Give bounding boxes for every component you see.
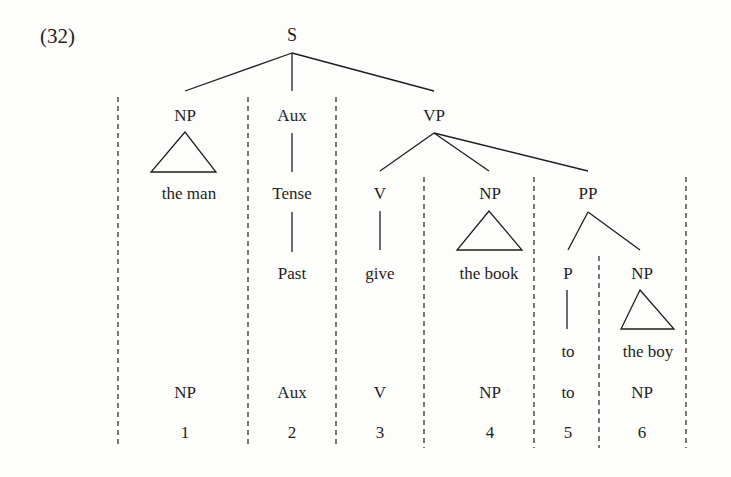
branch-vp-v [380,133,434,171]
node-np-subject: NP [174,107,196,124]
branch-pp-np [588,212,640,250]
branch-vp-pp [434,133,588,171]
analysis-category-1: NP [174,384,196,401]
node-aux: Aux [277,107,306,124]
node-p: P [563,265,572,282]
branch-s-vp [292,53,434,91]
node-v: V [374,185,386,202]
analysis-category-4: NP [479,384,501,401]
analysis-index-4: 4 [486,424,495,441]
node-vp: VP [423,107,445,124]
analysis-index-2: 2 [288,424,297,441]
branch-s-np [185,53,292,91]
node-to: to [561,343,574,360]
node-give: give [365,265,394,282]
node-s: S [287,26,297,44]
analysis-index-6: 6 [638,424,647,441]
node-tense: Tense [272,185,311,202]
analysis-index-1: 1 [181,424,190,441]
analysis-category-3: V [374,384,386,401]
branch-vp-np [434,133,489,171]
analysis-index-3: 3 [376,424,385,441]
node-np-pp-object: NP [631,265,653,282]
terminal-the-boy: the boy [623,343,674,360]
np-triangle-the-book [457,211,522,250]
analysis-category-5: to [561,384,574,401]
syntax-tree-lines [0,0,731,477]
node-past: Past [278,265,306,282]
analysis-category-6: NP [631,384,653,401]
segment-boundaries [118,97,686,448]
analysis-category-2: Aux [277,384,306,401]
analysis-index-5: 5 [564,424,573,441]
terminal-the-man: the man [162,185,216,202]
terminal-the-book: the book [459,265,518,282]
node-pp: PP [579,185,598,202]
node-np-object: NP [479,185,501,202]
branch-pp-p [568,212,588,250]
np-triangle-the-man [151,132,216,172]
np-triangle-the-boy [621,290,674,329]
